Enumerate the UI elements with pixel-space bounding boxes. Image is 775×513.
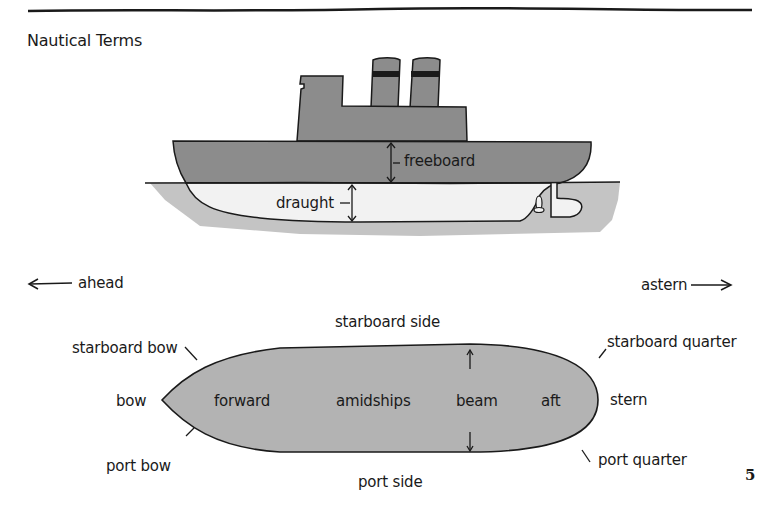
- label-amidships: amidships: [336, 392, 411, 410]
- label-starboard-side: starboard side: [335, 313, 440, 331]
- label-draught: draught: [276, 194, 334, 212]
- label-port-side: port side: [358, 473, 422, 491]
- hull-below-waterline: [186, 183, 560, 222]
- top-rule: [28, 8, 752, 11]
- label-beam: beam: [456, 392, 498, 410]
- diagram-canvas: [0, 0, 775, 513]
- hull-above-waterline: [173, 141, 591, 183]
- astern-arrow-icon: [691, 280, 731, 290]
- label-astern: astern: [641, 276, 687, 294]
- label-starboard-quarter: starboard quarter: [607, 333, 736, 351]
- label-freeboard: freeboard: [404, 152, 475, 170]
- page-number: 5: [745, 466, 755, 484]
- label-forward: forward: [214, 392, 270, 410]
- label-stern: stern: [610, 391, 647, 409]
- label-aft: aft: [541, 392, 561, 410]
- label-starboard-bow: starboard bow: [72, 339, 178, 357]
- label-bow: bow: [116, 392, 146, 410]
- label-ahead: ahead: [78, 274, 124, 292]
- funnel-2: [410, 58, 440, 108]
- funnel-1: [371, 58, 400, 108]
- page-title: Nautical Terms: [27, 32, 142, 50]
- ahead-arrow-icon: [29, 279, 72, 289]
- label-port-bow: port bow: [106, 457, 171, 475]
- label-port-quarter: port quarter: [598, 451, 687, 469]
